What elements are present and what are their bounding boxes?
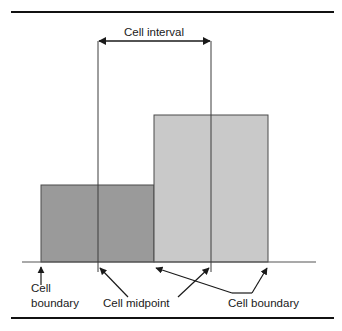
cell-boundary-left-label-line2: boundary xyxy=(31,297,79,309)
cell-boundary-inner-pointer xyxy=(156,268,232,293)
cell-interval-label: Cell interval xyxy=(124,26,184,38)
cell-boundary-outer-pointer xyxy=(252,268,267,293)
cell-interval-diagram: Cell interval Cell boundary Cell midpoin… xyxy=(0,0,342,331)
cell-midpoint-label: Cell midpoint xyxy=(103,297,170,309)
cell-midpoint-right-pointer xyxy=(178,268,209,297)
cell-boundary-left-label-line1: Cell xyxy=(31,282,51,294)
cell-midpoint-left-pointer xyxy=(100,268,128,297)
diagram-canvas: Cell interval Cell boundary Cell midpoin… xyxy=(0,0,342,331)
cell-boundary-right-label: Cell boundary xyxy=(228,297,299,309)
